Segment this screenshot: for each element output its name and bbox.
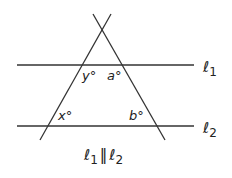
parallel-lines-diagram: ℓ1 ℓ2 y° a° x° b° ℓ1‖ℓ2 <box>0 0 232 178</box>
angle-a: a° <box>107 68 121 83</box>
angle-y: y° <box>81 68 96 83</box>
label-l1: ℓ1 <box>202 58 217 79</box>
angle-x: x° <box>57 108 72 123</box>
angle-b: b° <box>129 108 144 123</box>
transversal-left <box>40 14 111 140</box>
parallel-caption: ℓ1‖ℓ2 <box>83 146 123 167</box>
label-l2: ℓ2 <box>202 119 217 140</box>
